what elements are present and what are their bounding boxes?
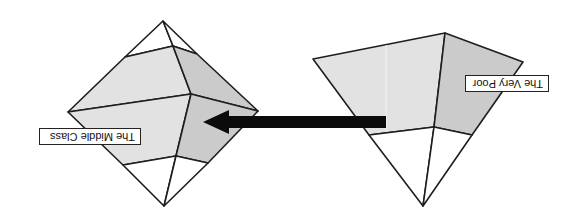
diagram-svg xyxy=(0,0,587,224)
middle-class-label: The Middle Class xyxy=(39,128,141,145)
middle-class-shape xyxy=(68,21,258,206)
diagram-canvas: The Middle Class The Very Poor xyxy=(0,0,587,224)
very-poor-label: The Very Poor xyxy=(465,75,549,92)
